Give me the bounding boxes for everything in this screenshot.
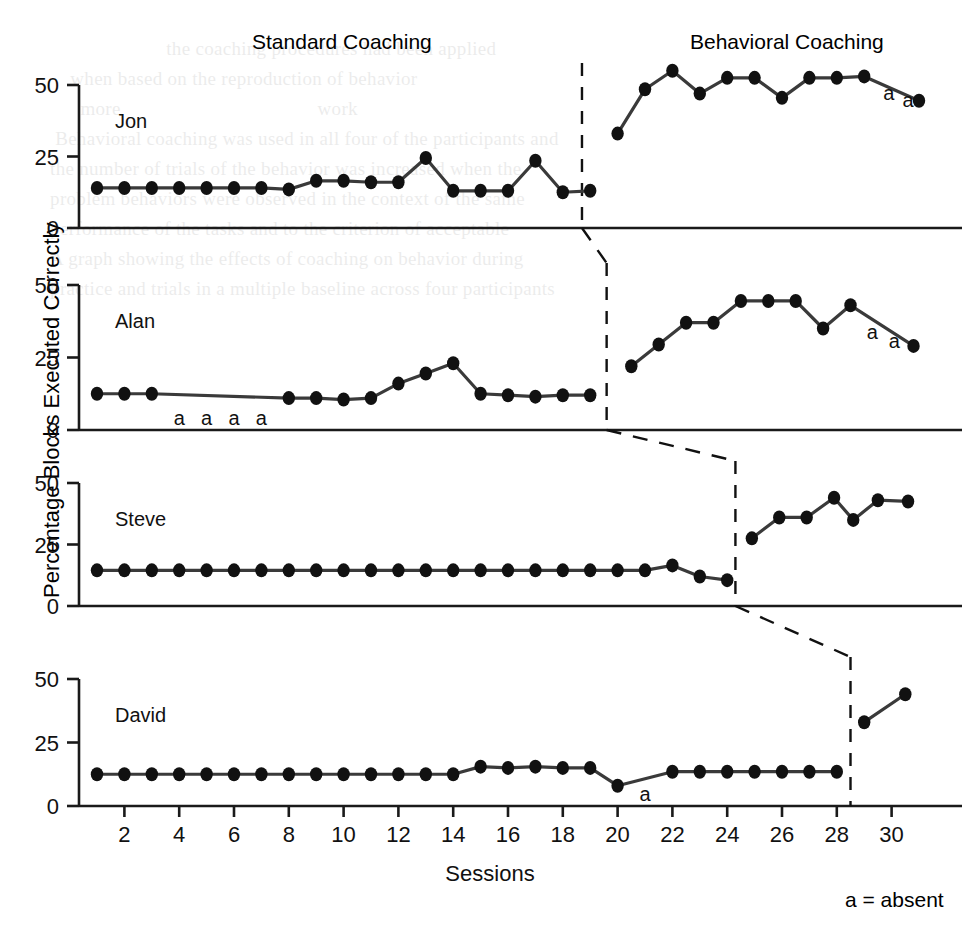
data-point-jon[interactable] bbox=[118, 181, 130, 195]
data-point-jon[interactable] bbox=[831, 71, 843, 85]
data-point-steve[interactable] bbox=[474, 563, 486, 577]
data-point-steve[interactable] bbox=[721, 573, 733, 587]
data-point-alan[interactable] bbox=[91, 387, 103, 401]
data-point-steve[interactable] bbox=[255, 563, 267, 577]
data-point-steve[interactable] bbox=[337, 563, 349, 577]
data-point-steve[interactable] bbox=[694, 569, 706, 583]
data-point-david[interactable] bbox=[666, 765, 678, 779]
data-point-steve[interactable] bbox=[847, 513, 859, 527]
data-point-jon[interactable] bbox=[146, 181, 158, 195]
data-point-steve[interactable] bbox=[228, 563, 240, 577]
data-point-alan[interactable] bbox=[707, 316, 719, 330]
data-point-steve[interactable] bbox=[584, 563, 596, 577]
data-point-jon[interactable] bbox=[228, 181, 240, 195]
data-point-david[interactable] bbox=[748, 765, 760, 779]
data-point-alan[interactable] bbox=[392, 377, 404, 391]
data-point-alan[interactable] bbox=[907, 339, 919, 353]
data-point-david[interactable] bbox=[721, 765, 733, 779]
data-point-jon[interactable] bbox=[557, 185, 569, 199]
data-point-david[interactable] bbox=[392, 767, 404, 781]
data-point-steve[interactable] bbox=[746, 531, 758, 545]
data-point-david[interactable] bbox=[803, 765, 815, 779]
data-point-jon[interactable] bbox=[666, 64, 678, 78]
data-point-steve[interactable] bbox=[118, 563, 130, 577]
data-point-steve[interactable] bbox=[800, 510, 812, 524]
data-point-alan[interactable] bbox=[502, 388, 514, 402]
data-point-david[interactable] bbox=[502, 761, 514, 775]
data-point-david[interactable] bbox=[173, 767, 185, 781]
data-point-david[interactable] bbox=[337, 767, 349, 781]
data-point-alan[interactable] bbox=[584, 388, 596, 402]
data-point-jon[interactable] bbox=[200, 181, 212, 195]
data-point-alan[interactable] bbox=[529, 390, 541, 404]
data-point-jon[interactable] bbox=[502, 184, 514, 198]
data-point-david[interactable] bbox=[557, 761, 569, 775]
data-point-alan[interactable] bbox=[762, 294, 774, 308]
data-point-alan[interactable] bbox=[337, 393, 349, 407]
data-point-david[interactable] bbox=[255, 767, 267, 781]
data-point-david[interactable] bbox=[228, 767, 240, 781]
data-point-alan[interactable] bbox=[557, 388, 569, 402]
data-point-jon[interactable] bbox=[420, 151, 432, 165]
data-point-jon[interactable] bbox=[913, 94, 925, 108]
data-point-david[interactable] bbox=[694, 765, 706, 779]
data-point-steve[interactable] bbox=[828, 491, 840, 505]
data-point-alan[interactable] bbox=[844, 298, 856, 312]
data-point-jon[interactable] bbox=[694, 87, 706, 101]
data-point-david[interactable] bbox=[776, 765, 788, 779]
data-point-steve[interactable] bbox=[529, 563, 541, 577]
data-point-jon[interactable] bbox=[858, 69, 870, 83]
data-point-david[interactable] bbox=[365, 767, 377, 781]
data-point-steve[interactable] bbox=[902, 494, 914, 508]
data-point-steve[interactable] bbox=[773, 510, 785, 524]
data-point-jon[interactable] bbox=[776, 91, 788, 105]
data-point-david[interactable] bbox=[611, 779, 623, 793]
data-point-jon[interactable] bbox=[447, 184, 459, 198]
data-point-steve[interactable] bbox=[310, 563, 322, 577]
data-point-alan[interactable] bbox=[310, 391, 322, 405]
data-point-david[interactable] bbox=[899, 687, 911, 701]
data-point-david[interactable] bbox=[474, 760, 486, 774]
data-point-alan[interactable] bbox=[474, 387, 486, 401]
data-point-alan[interactable] bbox=[365, 391, 377, 405]
data-point-david[interactable] bbox=[283, 767, 295, 781]
data-point-jon[interactable] bbox=[310, 174, 322, 188]
data-point-david[interactable] bbox=[310, 767, 322, 781]
data-point-david[interactable] bbox=[200, 767, 212, 781]
data-point-steve[interactable] bbox=[611, 563, 623, 577]
data-point-alan[interactable] bbox=[420, 366, 432, 380]
data-point-steve[interactable] bbox=[447, 563, 459, 577]
data-point-steve[interactable] bbox=[639, 563, 651, 577]
data-point-jon[interactable] bbox=[803, 71, 815, 85]
data-point-david[interactable] bbox=[831, 765, 843, 779]
data-point-david[interactable] bbox=[447, 767, 459, 781]
data-point-david[interactable] bbox=[858, 715, 870, 729]
data-point-david[interactable] bbox=[420, 767, 432, 781]
data-point-jon[interactable] bbox=[392, 175, 404, 189]
data-point-steve[interactable] bbox=[392, 563, 404, 577]
data-point-steve[interactable] bbox=[173, 563, 185, 577]
data-point-alan[interactable] bbox=[817, 322, 829, 336]
data-point-jon[interactable] bbox=[584, 184, 596, 198]
data-point-david[interactable] bbox=[118, 767, 130, 781]
data-point-jon[interactable] bbox=[337, 174, 349, 188]
data-point-jon[interactable] bbox=[474, 184, 486, 198]
data-point-steve[interactable] bbox=[420, 563, 432, 577]
data-point-jon[interactable] bbox=[255, 181, 267, 195]
data-point-alan[interactable] bbox=[653, 337, 665, 351]
data-point-jon[interactable] bbox=[91, 181, 103, 195]
data-point-alan[interactable] bbox=[283, 391, 295, 405]
data-point-jon[interactable] bbox=[611, 127, 623, 141]
data-point-alan[interactable] bbox=[625, 359, 637, 373]
data-point-jon[interactable] bbox=[748, 71, 760, 85]
data-point-david[interactable] bbox=[91, 767, 103, 781]
data-point-steve[interactable] bbox=[200, 563, 212, 577]
data-point-steve[interactable] bbox=[91, 563, 103, 577]
data-point-steve[interactable] bbox=[365, 563, 377, 577]
data-point-steve[interactable] bbox=[872, 493, 884, 507]
data-point-jon[interactable] bbox=[173, 181, 185, 195]
data-point-alan[interactable] bbox=[735, 294, 747, 308]
data-point-alan[interactable] bbox=[146, 387, 158, 401]
data-point-alan[interactable] bbox=[118, 387, 130, 401]
data-point-alan[interactable] bbox=[680, 316, 692, 330]
